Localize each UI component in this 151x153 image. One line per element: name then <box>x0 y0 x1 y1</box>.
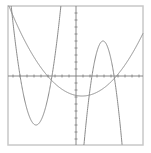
function-plot <box>0 0 151 153</box>
plot-canvas <box>0 0 151 153</box>
